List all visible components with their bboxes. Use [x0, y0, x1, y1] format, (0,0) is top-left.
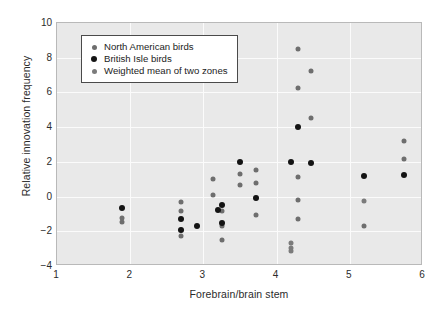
data-point: [178, 227, 184, 233]
legend-item-bi: British Isle birds: [89, 53, 228, 65]
data-point: [362, 198, 367, 203]
data-point: [288, 159, 294, 165]
data-point: [288, 248, 293, 253]
data-point: [194, 223, 200, 229]
y-tick-label: 8: [4, 51, 52, 62]
y-tick-label: 2: [4, 155, 52, 166]
data-point: [210, 177, 215, 182]
legend-marker-icon: [89, 45, 99, 50]
legend-item-label: North American birds: [104, 41, 194, 53]
data-point: [219, 220, 225, 226]
data-point: [309, 115, 314, 120]
data-point: [295, 175, 300, 180]
legend-marker-icon: [89, 69, 99, 74]
data-point: [361, 173, 367, 179]
legend-item-wm: Weighted mean of two zones: [89, 65, 228, 77]
data-point: [401, 138, 406, 143]
data-point: [295, 85, 300, 90]
legend-marker-icon: [89, 56, 99, 62]
x-tick-label: 5: [329, 269, 369, 280]
data-point: [295, 46, 300, 51]
circle-icon: [91, 56, 97, 62]
data-point: [238, 183, 243, 188]
data-point: [120, 219, 125, 224]
data-point: [362, 224, 367, 229]
legend-item-label: British Isle birds: [104, 53, 172, 65]
data-point: [178, 208, 183, 213]
data-point: [295, 217, 300, 222]
scatter-chart-figure: Relative innovation frequency −4−2024681…: [0, 0, 440, 314]
y-tick-label: 10: [4, 17, 52, 28]
y-tick-label: 4: [4, 121, 52, 132]
x-tick-label: 3: [182, 269, 222, 280]
data-point: [238, 171, 243, 176]
circle-icon: [92, 45, 97, 50]
chart-legend: North American birdsBritish Isle birdsWe…: [81, 35, 238, 83]
data-point: [401, 172, 407, 178]
circle-icon: [92, 69, 97, 74]
x-axis-tick-labels: 123456: [56, 269, 422, 285]
data-point: [309, 69, 314, 74]
y-tick-label: −2: [4, 225, 52, 236]
legend-item-label: Weighted mean of two zones: [104, 65, 228, 77]
legend-item-na: North American birds: [89, 41, 228, 53]
data-point: [219, 202, 225, 208]
x-tick-label: 4: [256, 269, 296, 280]
data-point: [237, 159, 243, 165]
data-point: [254, 167, 259, 172]
x-tick-label: 2: [109, 269, 149, 280]
y-axis-tick-labels: −4−20246810: [0, 22, 52, 265]
data-point: [119, 205, 125, 211]
data-point: [401, 156, 406, 161]
y-tick-label: 6: [4, 86, 52, 97]
data-point: [254, 181, 259, 186]
data-point: [308, 160, 314, 166]
data-point: [253, 195, 259, 201]
data-point: [295, 198, 300, 203]
data-point: [178, 200, 183, 205]
y-tick-label: 0: [4, 190, 52, 201]
x-tick-label: 1: [36, 269, 76, 280]
data-point: [254, 213, 259, 218]
data-point: [178, 234, 183, 239]
x-axis-label: Forebrain/brain stem: [56, 288, 422, 300]
data-point: [219, 238, 224, 243]
x-tick-label: 6: [402, 269, 440, 280]
data-point: [295, 124, 301, 130]
data-point: [210, 193, 215, 198]
data-point: [178, 216, 184, 222]
